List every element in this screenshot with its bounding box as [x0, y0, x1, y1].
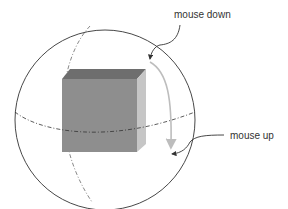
mouse-up-label: mouse up	[230, 130, 274, 141]
drag-path-arrow	[150, 62, 171, 145]
mouse-down-label: mouse down	[174, 9, 231, 20]
cube-top-face	[62, 69, 146, 79]
mouse-down-pointer	[150, 25, 180, 59]
cube-front-face	[62, 79, 137, 152]
mouse-up-pointer	[172, 135, 224, 154]
cube	[62, 69, 146, 152]
trackball-diagram: mouse down mouse up	[0, 0, 288, 209]
cube-side-face	[137, 69, 146, 152]
